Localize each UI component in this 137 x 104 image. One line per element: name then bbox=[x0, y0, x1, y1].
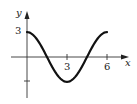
y-axis-arrow-icon bbox=[25, 11, 30, 19]
y-axis-label: y bbox=[16, 8, 22, 18]
y-tick-label-3: 3 bbox=[15, 26, 21, 36]
x-tick-label-3: 3 bbox=[64, 62, 70, 72]
x-axis-label: x bbox=[125, 58, 131, 68]
x-tick-label-6: 6 bbox=[104, 62, 110, 72]
